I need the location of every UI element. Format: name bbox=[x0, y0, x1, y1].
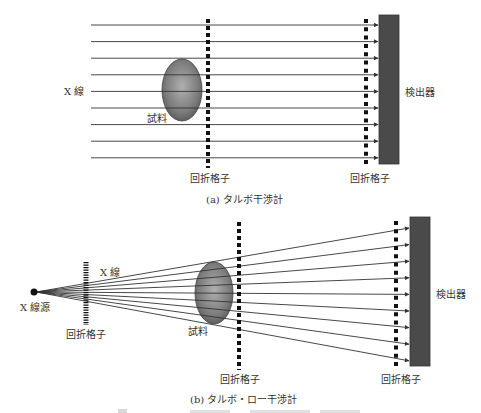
sample-a bbox=[162, 59, 202, 121]
cropped-figure-caption bbox=[118, 409, 360, 413]
xray-label-b: X 線 bbox=[100, 266, 120, 278]
detector-label-a: 検出器 bbox=[405, 86, 435, 98]
xray-label-a: X 線 bbox=[64, 85, 84, 97]
detector-a bbox=[379, 15, 399, 164]
source-label-b: X 線源 bbox=[20, 301, 50, 313]
xray-beams-a bbox=[91, 25, 378, 158]
grating1-label-a: 回折格子 bbox=[190, 172, 230, 184]
sample-label-b: 試料 bbox=[188, 325, 208, 337]
detector-b bbox=[410, 217, 430, 366]
talbot-interferometer-diagram: X 線 試料 回折格子 回折格子 検出器 (a) タルボ干渉計 X 線源 X 線… bbox=[0, 0, 481, 413]
grating1-label-b: 回折格子 bbox=[220, 373, 260, 385]
caption-a: (a) タルボ干渉計 bbox=[206, 193, 283, 205]
panel-a-talbot: X 線 試料 回折格子 回折格子 検出器 (a) タルボ干渉計 bbox=[64, 15, 435, 205]
detector-label-b: 検出器 bbox=[436, 288, 466, 300]
sample-label-a: 試料 bbox=[147, 112, 167, 124]
caption-b: (b) タルボ・ロー干渉計 bbox=[190, 393, 297, 405]
grating2-label-a: 回折格子 bbox=[350, 172, 390, 184]
grating2-label-b: 回折格子 bbox=[381, 373, 421, 385]
source-grating-label-b: 回折格子 bbox=[66, 328, 106, 340]
xray-source bbox=[31, 289, 38, 296]
panel-b-talbot-lau: X 線源 X 線 回折格子 試料 回折格子 回折格子 検出器 (b) タルボ・ロ… bbox=[20, 217, 466, 405]
